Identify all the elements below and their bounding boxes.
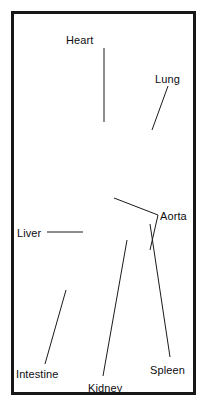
label-heart: Heart	[66, 35, 93, 46]
leader-line-kidney	[103, 240, 127, 376]
label-aorta: Aorta	[160, 211, 187, 222]
label-lung: Lung	[155, 74, 180, 85]
label-spleen: Spleen	[150, 365, 185, 376]
leader-line-lung	[152, 86, 168, 130]
label-leader-lines	[0, 0, 207, 407]
circulatory-system-figure: Heart Lung Aorta Liver Intestine Kidney …	[0, 0, 207, 407]
leader-line-intestine	[45, 290, 66, 364]
label-intestine: Intestine	[16, 369, 58, 380]
label-kidney: Kidney	[88, 383, 122, 394]
label-liver: Liver	[17, 228, 41, 239]
leader-line-aorta	[114, 198, 158, 215]
leader-line-spleen	[150, 224, 170, 357]
